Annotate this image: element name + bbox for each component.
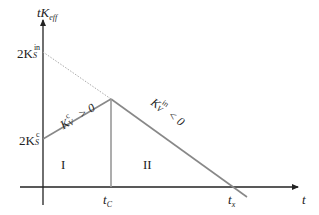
y-tick-2ks-c: 2KcS — [19, 134, 45, 147]
dotted-extension-line — [43, 52, 111, 99]
x-axis-label: t — [302, 193, 306, 206]
region-i-label: I — [61, 158, 65, 171]
x-tick-tx: tx — [228, 193, 235, 206]
region-ii-label: II — [143, 158, 152, 171]
x-tick-tc: tC — [103, 193, 112, 206]
y-tick-2ks-in: 2KinS — [17, 47, 43, 60]
y-axis-label: tKeff — [37, 6, 57, 19]
